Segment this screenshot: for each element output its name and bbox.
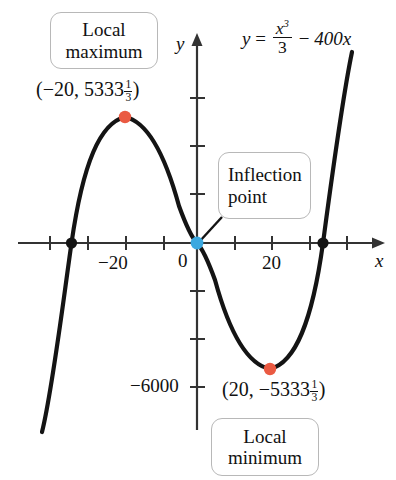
min-y-fraction: 13 [310,379,318,404]
x-tick-label-20: 20 [262,252,281,274]
y-tick-label-minus-6000: −6000 [130,375,179,397]
max-y-whole: 5333 [84,78,124,100]
equation-term: 400x [314,28,351,49]
local-minimum-coordinate-label: (20, −533313) [222,378,325,404]
callout-local-maximum-line1: Local [82,19,125,40]
x-axis-label: x [375,250,383,272]
local-minimum-dot [264,363,276,375]
function-equation-label: y = x33 − 400x [242,18,351,57]
min-y-fraction-denominator: 3 [310,392,318,404]
max-paren-close: ) [133,78,140,100]
equation-fraction: x33 [273,18,292,57]
callout-local-minimum-line2: minimum [228,447,302,468]
equation-fraction-denominator: 3 [273,38,292,56]
callout-inflection-point: Inflection point [218,152,311,219]
local-maximum-coordinate-label: (−20, 533313) [36,78,139,104]
equation-fraction-numerator: x3 [273,18,292,38]
equation-equals: = [255,28,266,49]
min-paren-open: ( [222,378,229,400]
equation-operator: − [299,28,310,49]
max-y-fraction-denominator: 3 [124,92,132,104]
y-axis-label: y [176,33,184,55]
inflection-point-dot [191,237,204,250]
callout-local-minimum-line1: Local [243,426,286,447]
x-intercept-dot-left [66,237,77,248]
cubic-function-plot [0,0,396,480]
callout-inflection-point-line2: point [228,186,267,207]
equation-lhs: y [242,28,250,49]
equation-numerator-exponent: 3 [284,17,289,29]
min-y-whole: 5333 [270,378,310,400]
min-y-fraction-numerator: 1 [310,379,318,392]
max-y-fraction: 13 [124,79,132,104]
min-paren-close: ) [319,378,326,400]
x-tick-label-minus-20: −20 [98,252,128,274]
callout-local-maximum-line2: maximum [65,41,142,62]
callout-local-minimum: Local minimum [211,418,319,476]
local-maximum-dot [119,111,131,123]
max-paren-open: ( [36,78,43,100]
min-y-sign: − [259,378,270,400]
callout-local-maximum: Local maximum [50,12,158,69]
callout-inflection-point-line1: Inflection [228,164,302,185]
x-axis-arrowhead [372,238,385,249]
x-tick-label-zero: 0 [178,250,188,272]
max-y-fraction-numerator: 1 [124,79,132,92]
x-intercept-dot-right [317,237,328,248]
min-x-value: 20, [229,378,254,400]
inflection-leader-line [200,217,222,241]
graph-figure: Local maximum Inflection point Local min… [0,0,396,480]
max-x-value: −20, [43,78,79,100]
y-axis-arrowhead [192,33,203,46]
equation-numerator-base: x [276,18,284,38]
